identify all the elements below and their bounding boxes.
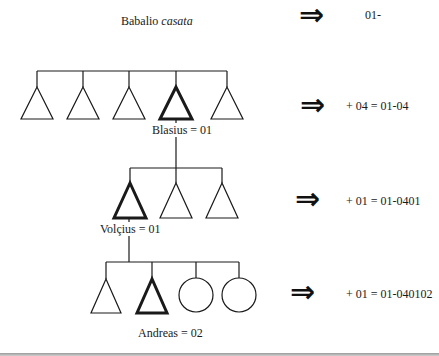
female-circle-icon [179,278,213,312]
code-step-4: + 01 = 01-040102 [346,287,433,301]
title-italic: casata [161,14,192,28]
code-step-3: + 01 = 01-0401 [346,194,421,208]
label-blasius: Blasius = 01 [151,123,213,137]
lineage-title: Babalio casata [121,14,193,28]
male-triangle-icon-highlighted [160,87,192,119]
male-triangle-icon [21,87,53,119]
male-triangle-icon [67,87,99,119]
generation-1 [21,71,243,119]
male-triangle-icon [91,279,121,313]
male-triangle-icon [206,183,238,218]
generation-2 [114,168,238,218]
male-triangle-icon [160,183,192,218]
kinship-diagram [0,0,439,356]
title-prefix: Babalio [121,14,161,28]
male-triangle-icon-highlighted [137,279,167,313]
female-circle-icon [222,278,256,312]
implies-arrow-icon: ⇒ [295,184,320,214]
code-step-2: + 04 = 01-04 [346,99,409,113]
label-volcius: Volçius = 01 [99,222,162,236]
implies-arrow-icon: ⇒ [300,90,325,120]
implies-arrow-icon: ⇒ [290,277,315,307]
male-triangle-icon [211,87,243,119]
implies-arrow-icon: ⇒ [299,0,324,30]
label-andreas: Andreas = 02 [138,326,203,340]
male-triangle-icon-highlighted [114,183,146,218]
generation-3 [91,262,256,313]
male-triangle-icon [113,87,145,119]
code-step-1: 01- [365,8,381,22]
